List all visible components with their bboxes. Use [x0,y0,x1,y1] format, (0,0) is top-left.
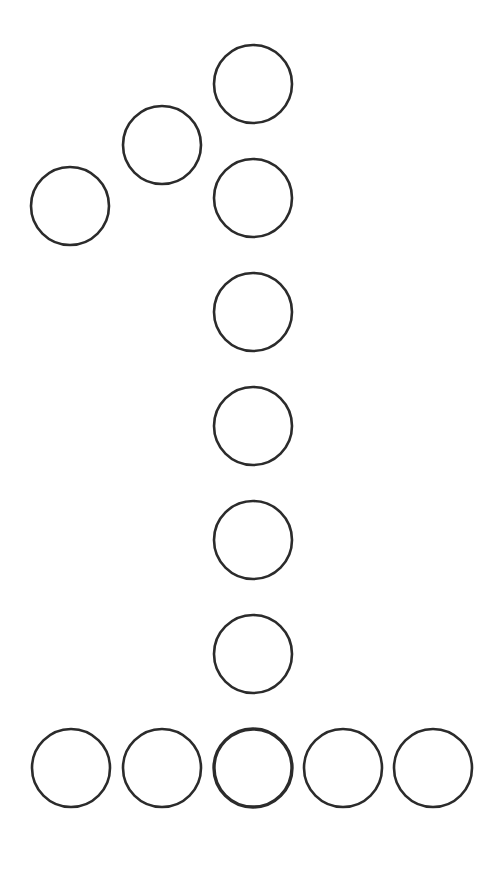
number-one-dot-figure [0,0,501,877]
background [0,0,501,877]
